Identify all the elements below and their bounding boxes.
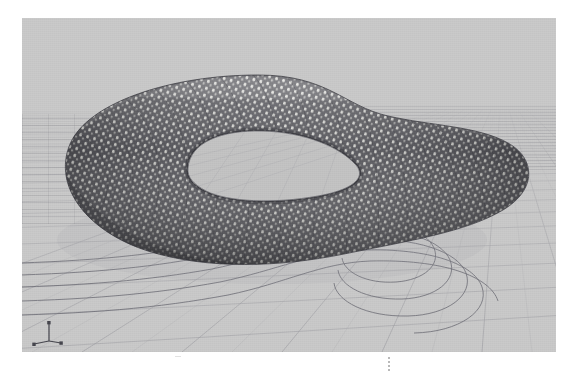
3d-model-viewport[interactable] bbox=[22, 18, 556, 352]
axis-z-tip bbox=[47, 321, 50, 324]
page-root bbox=[0, 0, 572, 377]
axis-y-tip bbox=[59, 341, 62, 344]
caption-tick-marker bbox=[175, 356, 181, 357]
mobius-loop-tube[interactable] bbox=[22, 18, 556, 352]
axis-x-tip bbox=[32, 343, 35, 346]
xyz-axis-indicator[interactable] bbox=[28, 314, 72, 348]
caption-dotted-marker bbox=[388, 357, 390, 371]
